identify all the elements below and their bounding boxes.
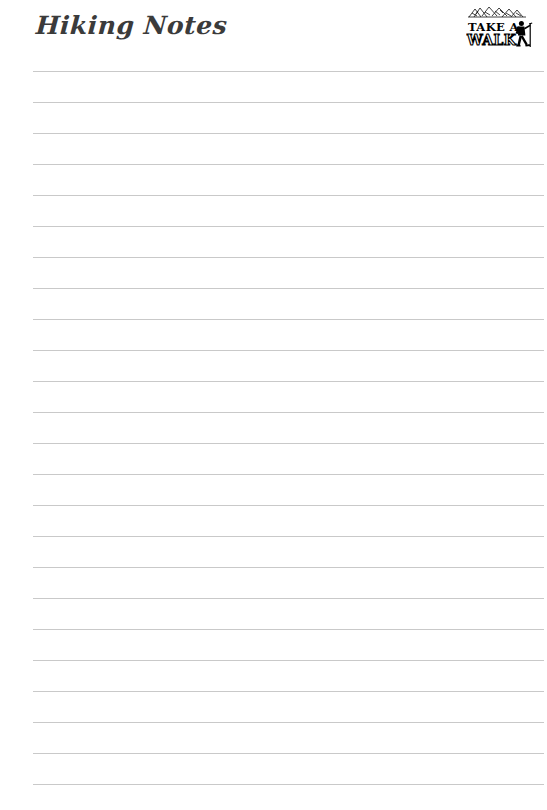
ruled-line (33, 784, 544, 785)
ruled-line (33, 598, 544, 599)
notepaper-page: Hiking Notes (0, 0, 547, 810)
ruled-line (33, 629, 544, 630)
ruled-line (33, 722, 544, 723)
ruled-lines-area (0, 0, 547, 810)
ruled-line (33, 381, 544, 382)
ruled-line (33, 319, 544, 320)
ruled-line (33, 536, 544, 537)
ruled-line (33, 133, 544, 134)
ruled-line (33, 660, 544, 661)
ruled-line (33, 350, 544, 351)
ruled-line (33, 505, 544, 506)
ruled-line (33, 71, 544, 72)
ruled-line (33, 226, 544, 227)
ruled-line (33, 474, 544, 475)
ruled-line (33, 567, 544, 568)
ruled-line (33, 753, 544, 754)
ruled-line (33, 195, 544, 196)
ruled-line (33, 102, 544, 103)
ruled-line (33, 412, 544, 413)
ruled-line (33, 288, 544, 289)
ruled-line (33, 164, 544, 165)
ruled-line (33, 443, 544, 444)
ruled-line (33, 257, 544, 258)
ruled-line (33, 691, 544, 692)
